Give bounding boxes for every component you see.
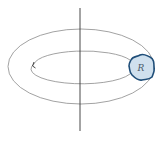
rotation-arrow-icon	[33, 62, 36, 68]
region-label: R	[137, 63, 145, 73]
torus-diagram: R	[0, 0, 162, 142]
torus-inner-outline	[31, 51, 130, 84]
